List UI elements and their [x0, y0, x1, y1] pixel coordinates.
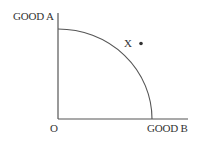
- point-x-marker: [139, 42, 143, 46]
- origin-label: O: [50, 123, 58, 134]
- x-axis-label: GOOD B: [147, 123, 188, 134]
- point-x-label: X: [124, 38, 132, 49]
- y-axis-label: GOOD A: [13, 11, 54, 22]
- ppf-curve: [58, 29, 152, 119]
- ppf-diagram: GOOD A GOOD B O X: [0, 0, 198, 142]
